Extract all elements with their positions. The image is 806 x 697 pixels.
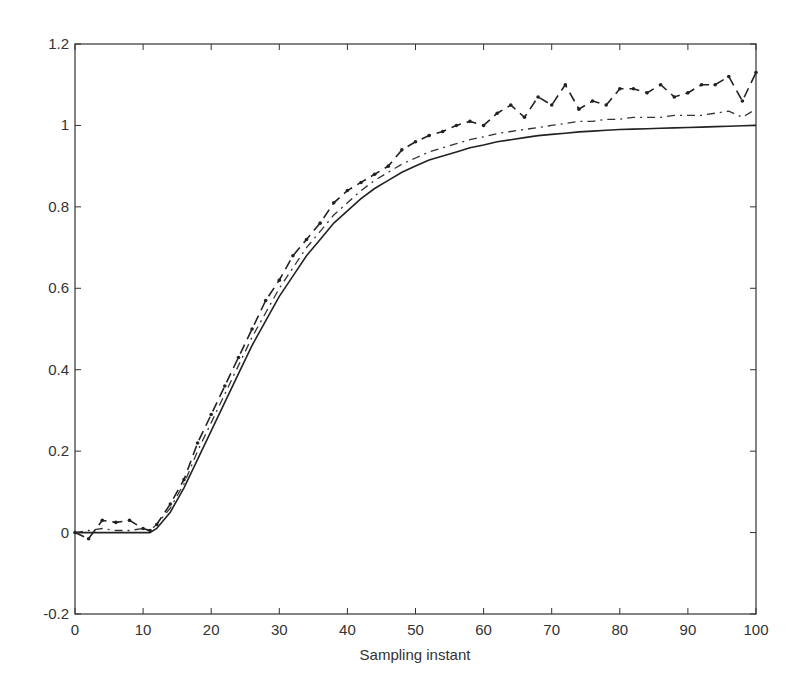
data-point-marker bbox=[332, 201, 336, 205]
data-point-marker bbox=[359, 181, 363, 185]
y-tick-label: 0.8 bbox=[48, 198, 69, 215]
data-point-marker bbox=[346, 189, 350, 193]
data-point-marker bbox=[209, 413, 213, 417]
data-point-marker bbox=[455, 124, 459, 128]
data-point-marker bbox=[128, 519, 132, 523]
data-point-marker bbox=[223, 384, 227, 388]
data-point-marker bbox=[427, 134, 431, 138]
data-point-marker bbox=[645, 91, 649, 95]
y-tick-label: 0.4 bbox=[48, 361, 69, 378]
data-point-marker bbox=[591, 99, 595, 103]
data-point-marker bbox=[169, 502, 173, 506]
data-point-marker bbox=[291, 254, 295, 258]
data-point-marker bbox=[604, 103, 608, 107]
x-axis-label: Sampling instant bbox=[360, 646, 472, 663]
data-point-marker bbox=[441, 130, 445, 134]
data-point-marker bbox=[305, 238, 309, 242]
x-tick-label: 100 bbox=[743, 621, 768, 638]
y-tick-label: 0.6 bbox=[48, 279, 69, 296]
data-point-marker bbox=[618, 87, 622, 91]
plot-frame bbox=[75, 44, 756, 614]
chart: 0102030405060708090100 -0.200.20.40.60.8… bbox=[0, 0, 806, 697]
data-point-marker bbox=[632, 87, 636, 91]
data-point-marker bbox=[400, 148, 404, 152]
data-point-marker bbox=[87, 537, 91, 541]
x-tick-label: 70 bbox=[543, 621, 560, 638]
data-point-marker bbox=[536, 95, 540, 99]
data-point-marker bbox=[196, 441, 200, 445]
data-point-marker bbox=[141, 527, 145, 531]
data-point-marker bbox=[468, 120, 472, 124]
data-point-marker bbox=[237, 356, 241, 360]
x-tick-label: 90 bbox=[680, 621, 697, 638]
x-tick-label: 50 bbox=[407, 621, 424, 638]
y-tick-label: 0 bbox=[61, 524, 69, 541]
data-point-marker bbox=[659, 83, 663, 87]
y-tick-label: 0.2 bbox=[48, 442, 69, 459]
data-point-marker bbox=[148, 529, 152, 533]
data-point-marker bbox=[509, 103, 513, 107]
x-tick-label: 10 bbox=[135, 621, 152, 638]
data-point-marker bbox=[713, 83, 717, 87]
data-point-marker bbox=[278, 278, 282, 282]
plot-series bbox=[73, 71, 758, 541]
x-tick-label: 20 bbox=[203, 621, 220, 638]
y-tick-label: -0.2 bbox=[43, 605, 69, 622]
x-axis: 0102030405060708090100 bbox=[71, 44, 769, 638]
x-tick-label: 80 bbox=[611, 621, 628, 638]
data-point-marker bbox=[73, 531, 77, 535]
x-tick-label: 40 bbox=[339, 621, 356, 638]
data-point-marker bbox=[264, 299, 268, 303]
data-point-marker bbox=[495, 111, 499, 115]
data-point-marker bbox=[318, 221, 322, 225]
data-point-marker bbox=[550, 103, 554, 107]
data-point-marker bbox=[182, 478, 186, 482]
data-point-marker bbox=[577, 107, 581, 111]
data-point-marker bbox=[250, 327, 254, 331]
data-point-marker bbox=[155, 523, 159, 527]
y-tick-label: 1 bbox=[61, 116, 69, 133]
data-point-marker bbox=[754, 71, 758, 75]
x-tick-label: 0 bbox=[71, 621, 79, 638]
data-point-marker bbox=[523, 115, 527, 119]
data-point-marker bbox=[114, 521, 118, 525]
x-tick-label: 30 bbox=[271, 621, 288, 638]
series-dash-dot bbox=[75, 109, 756, 532]
data-point-marker bbox=[414, 140, 418, 144]
data-point-marker bbox=[482, 124, 486, 128]
data-point-marker bbox=[564, 83, 568, 87]
data-point-marker bbox=[386, 164, 390, 168]
y-axis: -0.200.20.40.60.811.2 bbox=[43, 35, 756, 622]
data-point-marker bbox=[672, 95, 676, 99]
series-solid bbox=[75, 125, 756, 532]
data-point-marker bbox=[741, 99, 745, 103]
data-point-marker bbox=[100, 519, 104, 523]
data-point-marker bbox=[727, 75, 731, 79]
data-point-marker bbox=[373, 172, 377, 176]
data-point-marker bbox=[686, 91, 690, 95]
data-point-marker bbox=[700, 83, 704, 87]
y-tick-label: 1.2 bbox=[48, 35, 69, 52]
x-tick-label: 60 bbox=[475, 621, 492, 638]
